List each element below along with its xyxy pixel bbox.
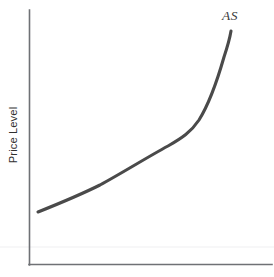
y-axis-title: Price Level [7,107,19,163]
as-curve-label: AS [221,8,238,23]
plot-area: AS [0,0,274,277]
chart-figure: AS Price Level [0,0,274,277]
aggregate-supply-curve [38,31,231,212]
